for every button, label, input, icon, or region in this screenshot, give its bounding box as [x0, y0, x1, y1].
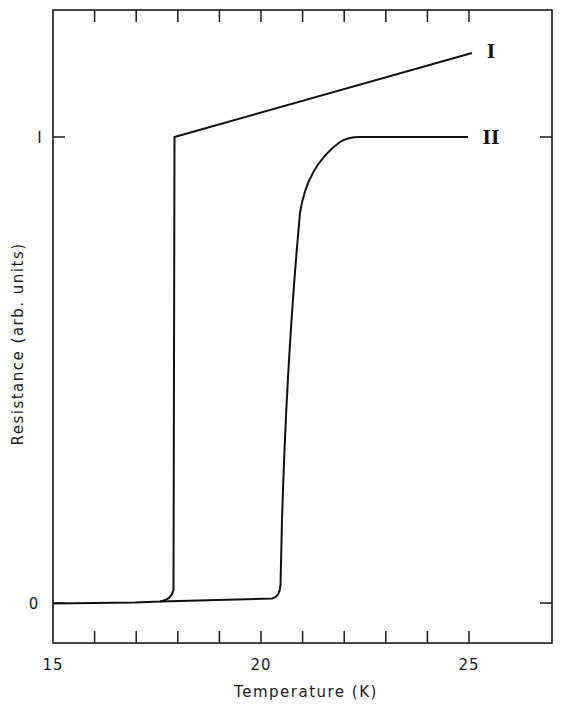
- x-tick-label-25: 25: [458, 656, 479, 674]
- y-tick-label-0: 0: [29, 595, 40, 613]
- curve-II: [160, 137, 468, 602]
- y-axis-ticks: [53, 137, 552, 603]
- x-axis-ticks-bottom: [95, 631, 469, 643]
- curve-I: [53, 53, 472, 604]
- y-tick-label-1: I: [37, 129, 42, 147]
- curve-label-II: II: [483, 127, 500, 148]
- curve-label-I: I: [487, 41, 495, 62]
- x-axis-ticks-top: [95, 10, 469, 22]
- y-axis-title: Resistance (arb. units): [9, 242, 27, 445]
- x-tick-label-20: 20: [250, 656, 271, 674]
- plot-frame: [53, 10, 552, 643]
- x-tick-label-15: 15: [42, 656, 63, 674]
- resistance-vs-temperature-chart: 15 20 25 0 I Temperature (K) Resistance …: [0, 0, 562, 711]
- x-axis-title: Temperature (K): [233, 683, 378, 701]
